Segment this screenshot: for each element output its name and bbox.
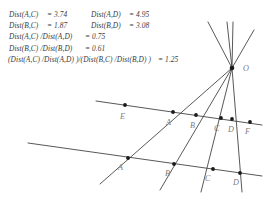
- label-upper-d: D: [228, 125, 234, 134]
- lower-point-a: [126, 156, 130, 160]
- upper-point-f: [248, 120, 252, 124]
- upper-point-c: [219, 116, 223, 120]
- upper-point-d: [230, 117, 234, 121]
- label-lower-b: B: [165, 169, 170, 178]
- upper-point-e: [123, 103, 127, 107]
- lower-point-d: [238, 171, 242, 175]
- label-upper-a: A: [166, 118, 171, 127]
- upper-point-b: [194, 113, 198, 117]
- ray-upper-left: [208, 22, 232, 68]
- label-vertex-o: O: [243, 64, 249, 73]
- lower-transversal-line: [28, 143, 262, 176]
- label-upper-e: E: [120, 112, 125, 121]
- lower-point-b: [172, 162, 176, 166]
- upper-point-a: [171, 110, 175, 114]
- label-upper-c: C: [214, 124, 219, 133]
- ray-through-b: [160, 68, 232, 190]
- ray-upper-right: [232, 30, 254, 68]
- vertex-point-o: [230, 66, 235, 71]
- ray-upper-mid: [227, 22, 232, 68]
- label-upper-f: F: [245, 127, 250, 136]
- label-lower-a: A: [118, 163, 123, 172]
- label-lower-c: C: [205, 174, 210, 183]
- intersection-points: [123, 66, 252, 175]
- label-upper-b: B: [190, 121, 195, 130]
- lower-point-c: [211, 167, 215, 171]
- label-lower-d: D: [233, 178, 239, 187]
- projective-pencil-diagram: [0, 0, 263, 201]
- ray-upper-vertical: [232, 22, 233, 68]
- geometry-sketch-canvas: Dist(A,C) = 3.74 Dist(A,D) = 4.95 Dist(B…: [0, 0, 263, 201]
